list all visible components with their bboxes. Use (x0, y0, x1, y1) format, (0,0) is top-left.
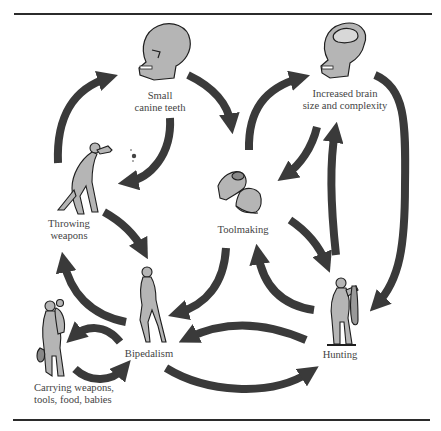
arrow-bipedalism-to-carrying (74, 328, 120, 342)
hunter-with-prey-icon (327, 278, 358, 345)
label-line: Toolmaking (210, 224, 276, 236)
hands-knapping-icon (218, 172, 261, 214)
feedback-diagram (0, 0, 441, 431)
label-line: Bipedalism (118, 348, 180, 360)
label-line: Small (124, 90, 196, 102)
label-bipedalism: Bipedalism (118, 348, 180, 360)
throwing-hominid-icon (58, 143, 136, 214)
carrying-hominid-icon (37, 300, 65, 377)
label-line: size and complexity (290, 100, 400, 112)
label-increased-brain: Increased brain size and complexity (290, 88, 400, 112)
arrow-throwing-to-bipedalism (104, 212, 143, 250)
label-hunting: Hunting (316, 349, 364, 361)
label-toolmaking: Toolmaking (210, 224, 276, 236)
label-line: canine teeth (124, 102, 196, 114)
arrow-bipedalism-to-throwing (64, 262, 126, 322)
skull-icon (139, 24, 190, 80)
walking-hominid-icon (140, 267, 166, 342)
arrow-hunting-to-bipedalism (188, 325, 306, 340)
label-line: Hunting (316, 349, 364, 361)
arrow-hunting-to-toolmaking (258, 254, 314, 310)
arrow-bipedalism-to-hunting (166, 368, 310, 389)
label-line: Carrying weapons, (34, 382, 134, 394)
label-carrying: Carrying weapons, tools, food, babies (34, 382, 134, 406)
label-line: Throwing (38, 218, 100, 230)
skull-with-brain-icon (321, 23, 366, 78)
label-throwing-weapons: Throwing weapons (38, 218, 100, 242)
arrow-toolmaking-to-bipedalism (178, 248, 226, 313)
arrow-canine-to-throwing (128, 118, 170, 182)
arrow-hunting-to-brain (331, 132, 336, 255)
arrow-toolmaking-to-hunting (290, 220, 326, 263)
label-line: weapons (38, 230, 100, 242)
arrow-carrying-to-bipedalism (75, 368, 124, 379)
label-small-canine-teeth: Small canine teeth (124, 90, 196, 114)
label-line: tools, food, babies (34, 394, 134, 406)
label-line: Increased brain (290, 88, 400, 100)
arrow-brain-to-toolmaking (286, 127, 317, 175)
